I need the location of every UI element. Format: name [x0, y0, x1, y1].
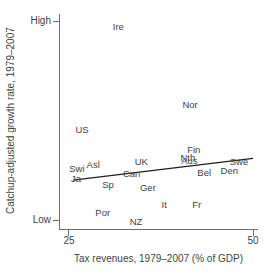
point-label-Fr: Fr — [192, 200, 201, 210]
point-label-UK: UK — [135, 157, 148, 167]
x-axis-title: Tax revenues, 1979–2007 (% of GDP) — [59, 253, 258, 264]
point-label-Por: Por — [95, 208, 110, 218]
point-label-Can: Can — [123, 169, 140, 179]
point-label-NZ: NZ — [130, 217, 143, 227]
trend-line — [0, 0, 271, 274]
point-label-Asl: Asl — [87, 160, 100, 170]
point-label-It: It — [162, 200, 167, 210]
point-label-Nor: Nor — [182, 100, 197, 110]
point-label-Sp: Sp — [102, 180, 114, 190]
point-label-Ja: Ja — [71, 174, 81, 184]
scatter-figure: Catchup-adjusted growth rate, 1979–2007 … — [0, 0, 271, 274]
point-label-Den: Den — [221, 166, 238, 176]
point-label-Ire: Ire — [113, 22, 124, 32]
point-label-Bel: Bel — [197, 168, 211, 178]
point-label-US: US — [75, 125, 88, 135]
point-label-Aus: Aus — [181, 156, 197, 166]
point-label-Ger: Ger — [140, 183, 156, 193]
